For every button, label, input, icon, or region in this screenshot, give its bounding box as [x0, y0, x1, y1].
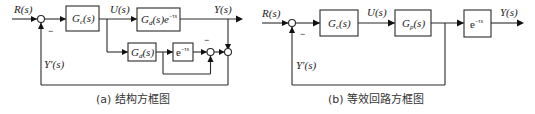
- caption-a: (a) 结构方框图: [96, 92, 170, 106]
- arrow-icon: [167, 49, 173, 55]
- inner-summing-junction-a: [207, 49, 214, 56]
- arrow-icon: [282, 20, 289, 26]
- feedback-label-b: Y'(s): [296, 59, 316, 72]
- arrow-icon: [60, 16, 66, 22]
- summing-junction-b: [289, 20, 296, 27]
- arrow-icon: [517, 20, 524, 27]
- input-label-a: R(s): [13, 3, 33, 16]
- summing-junction-a: [38, 16, 45, 23]
- output-label-b: Y(s): [500, 6, 518, 19]
- input-label-b: R(s): [261, 7, 281, 20]
- minus-sign-a: −: [48, 26, 53, 36]
- arrow-icon: [208, 56, 214, 63]
- arrow-icon: [289, 27, 295, 34]
- arrow-icon: [219, 49, 225, 55]
- minus-sign-b: −: [300, 29, 305, 39]
- minus-sign-inner-a: −: [204, 35, 209, 45]
- control-label-b: U(s): [367, 6, 387, 19]
- block-diagrams: R(s) − Gc(s) U(s) Gd(s)e−τs Y(s) Gd(s): [0, 0, 535, 114]
- arrow-icon: [388, 20, 395, 27]
- controller-label-a: Gc(s): [72, 12, 95, 26]
- arrow-icon: [236, 16, 243, 23]
- control-label-a: U(s): [110, 3, 130, 16]
- arrow-icon: [131, 16, 137, 22]
- arrow-icon: [122, 49, 128, 55]
- caption-b: (b) 等效回路方框图: [328, 92, 424, 106]
- plant-label-b: Gp(s): [402, 17, 425, 31]
- arrow-icon: [31, 16, 37, 22]
- model-label-a: Gd(s): [131, 46, 154, 60]
- arrow-icon: [38, 23, 44, 30]
- output-label-a: Y(s): [214, 3, 232, 16]
- output-summing-junction-a: [225, 49, 232, 56]
- arrow-icon: [201, 49, 207, 55]
- diagram-b: R(s) − Gc(s) U(s) Gp(s) e−τs Y(s) Y'(s) …: [261, 6, 524, 106]
- arrow-icon: [313, 20, 320, 27]
- diagram-a: R(s) − Gc(s) U(s) Gd(s)e−τs Y(s) Gd(s): [12, 3, 243, 106]
- arrow-icon: [457, 20, 464, 27]
- feedback-label-a: Y'(s): [44, 58, 64, 71]
- controller-label-b: Gc(s): [328, 17, 351, 31]
